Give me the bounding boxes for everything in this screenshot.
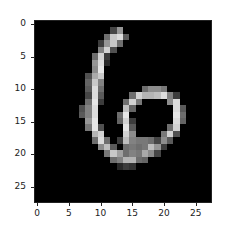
tick-mark xyxy=(69,203,70,206)
x-tick-10: 10 xyxy=(91,203,111,223)
y-tick-15: 15 xyxy=(0,122,34,132)
y-tick-label: 10 xyxy=(15,83,26,93)
y-tick-label: 25 xyxy=(15,181,26,191)
x-tick-label: 25 xyxy=(186,208,206,218)
tick-mark xyxy=(132,203,133,206)
tick-mark xyxy=(31,24,34,25)
x-tick-label: 5 xyxy=(59,208,79,218)
x-tick-15: 15 xyxy=(122,203,142,223)
y-tick-25: 25 xyxy=(0,187,34,197)
y-tick-label: 20 xyxy=(15,148,26,158)
x-tick-0: 0 xyxy=(27,203,47,223)
figure: 0 5 10 15 20 25 0 5 10 15 20 25 xyxy=(0,0,225,233)
x-tick-label: 15 xyxy=(122,208,142,218)
x-tick-label: 0 xyxy=(27,208,47,218)
y-tick-0: 0 xyxy=(0,24,34,34)
y-tick-label: 5 xyxy=(20,51,26,61)
x-tick-label: 20 xyxy=(154,208,174,218)
x-tick-20: 20 xyxy=(154,203,174,223)
y-tick-label: 15 xyxy=(15,116,26,126)
y-tick-5: 5 xyxy=(0,57,34,67)
x-tick-5: 5 xyxy=(59,203,79,223)
y-tick-20: 20 xyxy=(0,154,34,164)
tick-mark xyxy=(31,89,34,90)
x-tick-25: 25 xyxy=(186,203,206,223)
tick-mark xyxy=(196,203,197,206)
tick-mark xyxy=(31,187,34,188)
digit-image xyxy=(35,21,211,202)
y-tick-10: 10 xyxy=(0,89,34,99)
image-axes xyxy=(34,20,212,203)
y-tick-label: 0 xyxy=(20,18,26,28)
tick-mark xyxy=(31,154,34,155)
x-tick-label: 10 xyxy=(91,208,111,218)
tick-mark xyxy=(164,203,165,206)
pixel xyxy=(205,196,211,202)
tick-mark xyxy=(31,57,34,58)
tick-mark xyxy=(101,203,102,206)
tick-mark xyxy=(37,203,38,206)
tick-mark xyxy=(31,122,34,123)
